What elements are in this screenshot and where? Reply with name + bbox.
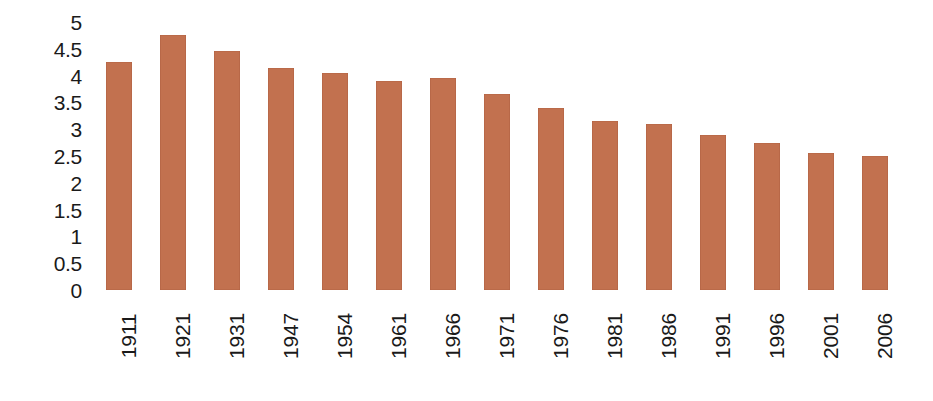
x-axis-tick-label: 1986 xyxy=(658,313,679,359)
bar[interactable] xyxy=(268,68,294,290)
bar[interactable] xyxy=(322,73,348,290)
x-axis-tick-label: 1921 xyxy=(172,313,193,359)
x-axis-tick-label: 1931 xyxy=(226,313,247,359)
bar[interactable] xyxy=(538,108,564,290)
x-axis-tick-label: 1961 xyxy=(388,313,409,359)
x-axis-tick-label: 2001 xyxy=(820,313,841,359)
bar[interactable] xyxy=(862,156,888,290)
x-axis-tick-slot: 1996 xyxy=(740,296,794,392)
bar[interactable] xyxy=(700,135,726,290)
bar-slot xyxy=(632,22,686,290)
x-axis-tick-label: 1991 xyxy=(712,313,733,359)
x-axis-tick-slot: 1911 xyxy=(92,296,146,392)
x-axis-tick-label: 1981 xyxy=(604,313,625,359)
bar-slot xyxy=(578,22,632,290)
y-axis-tick-label: 0 xyxy=(18,280,82,301)
x-axis-tick-slot: 2006 xyxy=(848,296,902,392)
x-axis-tick-slot: 2001 xyxy=(794,296,848,392)
x-axis-tick-label: 1911 xyxy=(118,314,139,358)
y-axis-tick-label: 4 xyxy=(18,65,82,86)
y-axis-tick-label: 3.5 xyxy=(18,92,82,113)
y-axis-tick-label: 2.5 xyxy=(18,146,82,167)
x-axis-tick-slot: 1986 xyxy=(632,296,686,392)
bar[interactable] xyxy=(484,94,510,290)
y-axis-tick-label: 1 xyxy=(18,226,82,247)
y-axis-tick-label: 2 xyxy=(18,172,82,193)
x-axis-tick-slot: 1961 xyxy=(362,296,416,392)
bar[interactable] xyxy=(592,121,618,290)
x-axis-tick-slot: 1947 xyxy=(254,296,308,392)
bar-slot xyxy=(470,22,524,290)
x-axis-tick-slot: 1976 xyxy=(524,296,578,392)
bar-slot xyxy=(416,22,470,290)
x-axis-tick-slot: 1981 xyxy=(578,296,632,392)
x-axis-tick-label: 1966 xyxy=(442,313,463,359)
bar-slot xyxy=(92,22,146,290)
bar-slot xyxy=(794,22,848,290)
x-axis: 1911192119311947195419611966197119761981… xyxy=(92,296,922,392)
x-axis-tick-slot: 1931 xyxy=(200,296,254,392)
x-axis-tick-label: 1996 xyxy=(766,313,787,359)
bar-slot xyxy=(848,22,902,290)
bar[interactable] xyxy=(808,153,834,290)
bar-slot xyxy=(254,22,308,290)
y-axis-tick-label: 3 xyxy=(18,119,82,140)
plot-area xyxy=(92,22,922,290)
y-axis-tick-label: 4.5 xyxy=(18,38,82,59)
bar[interactable] xyxy=(214,51,240,290)
bar[interactable] xyxy=(646,124,672,290)
y-axis-tick-label: 1.5 xyxy=(18,199,82,220)
x-axis-tick-label: 1976 xyxy=(550,313,571,359)
bar-slot xyxy=(362,22,416,290)
x-axis-tick-label: 2006 xyxy=(874,313,895,359)
x-axis-tick-label: 1947 xyxy=(280,313,301,359)
x-axis-tick-label: 1971 xyxy=(496,313,517,359)
x-axis-tick-label: 1954 xyxy=(334,313,355,359)
bar-slot xyxy=(524,22,578,290)
x-axis-tick-slot: 1921 xyxy=(146,296,200,392)
y-axis-tick-label: 5 xyxy=(18,12,82,33)
x-axis-tick-slot: 1966 xyxy=(416,296,470,392)
bar-slot xyxy=(740,22,794,290)
bar[interactable] xyxy=(754,143,780,290)
x-axis-tick-slot: 1971 xyxy=(470,296,524,392)
bar[interactable] xyxy=(160,35,186,290)
bar-slot xyxy=(308,22,362,290)
bar-chart: 54.543.532.521.510.50 191119211931194719… xyxy=(0,0,933,401)
y-axis-tick-label: 0.5 xyxy=(18,253,82,274)
y-axis: 54.543.532.521.510.50 xyxy=(18,22,82,290)
bar[interactable] xyxy=(430,78,456,290)
bar[interactable] xyxy=(106,62,132,290)
bar-slot xyxy=(686,22,740,290)
bar[interactable] xyxy=(376,81,402,290)
bar-slot xyxy=(146,22,200,290)
x-axis-tick-slot: 1991 xyxy=(686,296,740,392)
x-axis-tick-slot: 1954 xyxy=(308,296,362,392)
bar-slot xyxy=(200,22,254,290)
